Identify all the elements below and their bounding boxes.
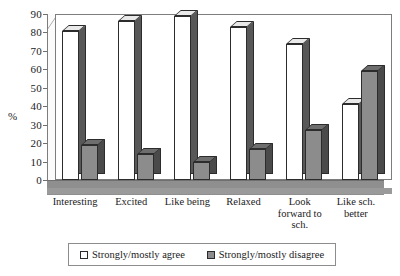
y-axis-tick-label: 30 [31,119,42,130]
bar-group [174,14,217,180]
legend-item-agree: Strongly/mostly agree [80,249,185,260]
y-axis-tick-label: 40 [31,101,42,112]
y-axis-tick-label: 20 [31,138,42,149]
bar-front-face [174,16,191,180]
bar-front-face [137,154,154,180]
y-axis-tick-label: 0 [36,175,42,186]
legend-label-disagree: Strongly/mostly disagree [219,249,324,260]
y-axis-tick-label: 70 [31,45,42,56]
bar-disagree [249,149,266,180]
bar-front-face [81,145,98,180]
legend-swatch-disagree-icon [207,251,215,259]
bar-group [62,14,105,180]
bar-disagree [81,145,98,180]
y-axis: % 0102030405060708090 [0,14,47,194]
legend-label-agree: Strongly/mostly agree [92,249,185,260]
bar-disagree [137,154,154,180]
bar-agree [230,27,247,180]
bar-disagree [193,162,210,180]
bar-disagree [305,130,322,180]
bar-front-face [342,104,359,180]
y-axis-tick-label: 10 [31,156,42,167]
bars-layer [55,14,392,194]
bar-front-face [286,44,303,180]
bar-agree [174,16,191,180]
bar-side-face [322,124,329,174]
chart-legend: Strongly/mostly agree Strongly/mostly di… [68,243,336,266]
plot-area [47,14,392,194]
bar-agree [62,31,79,180]
y-axis-title: % [8,111,17,122]
bar-front-face [305,130,322,180]
legend-item-disagree: Strongly/mostly disagree [207,249,324,260]
bar-agree [286,44,303,180]
bar-front-face [193,162,210,180]
y-axis-tick-label: 60 [31,64,42,75]
bar-front-face [249,149,266,180]
y-axis-tick-label: 80 [31,27,42,38]
bar-group [230,14,273,180]
bar-front-face [230,27,247,180]
bar-disagree [361,71,378,180]
bar-agree [342,104,359,180]
bar-group [342,14,385,180]
x-axis-label: Like sch. better [318,196,394,219]
bar-agree [118,21,135,180]
bar-group [118,14,161,180]
bar-front-face [62,31,79,180]
bar-group [286,14,329,180]
bar-side-face [378,65,385,174]
bar-chart-figure: % 0102030405060708090 InterestingExcited… [0,0,400,276]
bar-front-face [361,71,378,180]
legend-swatch-agree-icon [80,251,88,259]
y-axis-tick-label: 90 [31,9,42,20]
bar-front-face [118,21,135,180]
y-axis-tick-label: 50 [31,82,42,93]
x-axis-labels: InterestingExcitedLike beingRelaxedLook … [47,196,392,242]
bar-side-face [191,10,198,174]
